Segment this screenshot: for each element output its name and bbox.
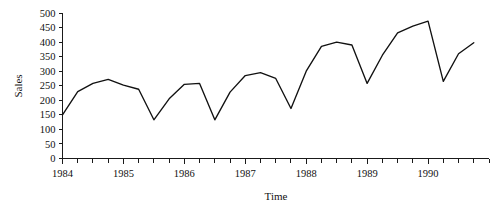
y-tick-label: 200 xyxy=(40,95,56,106)
y-tick-label: 450 xyxy=(40,22,56,33)
x-axis-tick-labels: 1984198519861987198819891990 xyxy=(52,168,439,179)
y-tick-label: 100 xyxy=(40,124,56,135)
x-tick-label: 1988 xyxy=(296,168,317,179)
sales-data-line xyxy=(63,21,474,120)
chart-canvas: 050100150200250300350400450500 198419851… xyxy=(0,0,501,211)
y-tick-label: 50 xyxy=(45,139,56,150)
y-tick-label: 150 xyxy=(40,109,56,120)
y-axis-ticks xyxy=(59,13,63,159)
x-axis-title: Time xyxy=(265,190,288,202)
y-tick-label: 350 xyxy=(40,51,56,62)
x-tick-label: 1987 xyxy=(235,168,256,179)
y-tick-label: 300 xyxy=(40,66,56,77)
x-tick-label: 1986 xyxy=(174,168,195,179)
y-tick-label: 500 xyxy=(40,8,56,19)
y-axis-tick-labels: 050100150200250300350400450500 xyxy=(40,8,56,165)
x-tick-label: 1989 xyxy=(357,168,378,179)
x-tick-label: 1985 xyxy=(113,168,134,179)
sales-time-series-figure: 050100150200250300350400450500 198419851… xyxy=(0,0,501,211)
y-tick-label: 250 xyxy=(40,80,56,91)
y-tick-label: 400 xyxy=(40,37,56,48)
x-tick-label: 1990 xyxy=(418,168,439,179)
y-tick-label: 0 xyxy=(50,153,55,164)
x-axis-minor-ticks xyxy=(63,159,490,163)
x-tick-label: 1984 xyxy=(52,168,74,179)
y-axis-title: Sales xyxy=(12,74,24,97)
x-axis-major-ticks xyxy=(63,159,429,165)
